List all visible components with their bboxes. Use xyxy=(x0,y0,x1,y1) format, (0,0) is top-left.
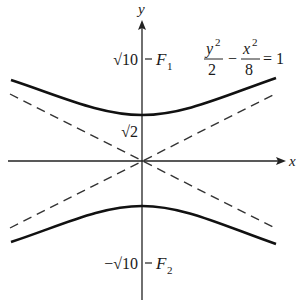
equation-term2-numerator: x xyxy=(242,40,250,57)
f2-subscript: 2 xyxy=(167,264,173,276)
f2-value-label: −√10 xyxy=(104,255,138,272)
equation-term2-denominator: 8 xyxy=(245,61,253,78)
y-axis-label: y xyxy=(136,1,145,17)
upper-branch xyxy=(11,78,276,115)
f1-subscript: 1 xyxy=(167,60,173,72)
vertex-label: √2 xyxy=(121,123,138,140)
f1-value-label: √10 xyxy=(113,51,138,68)
f1-label: F xyxy=(155,50,167,69)
equation-term1-numerator: y xyxy=(204,40,214,58)
equation-term1-denominator: 2 xyxy=(208,61,216,78)
lower-branch xyxy=(11,206,276,244)
equation-minus: − xyxy=(228,50,237,67)
equation-term2-exponent: 2 xyxy=(252,36,258,48)
equation-term1-exponent: 2 xyxy=(215,36,221,48)
equation: y 2 2 − x 2 8 = 1 xyxy=(204,36,284,78)
hyperbola-diagram: y x √10 F 1 −√10 F 2 √2 y 2 2 − x 2 8 = … xyxy=(0,0,301,306)
equation-equals: = 1 xyxy=(263,50,284,67)
f2-label: F xyxy=(155,254,167,273)
x-axis-label: x xyxy=(288,153,296,169)
